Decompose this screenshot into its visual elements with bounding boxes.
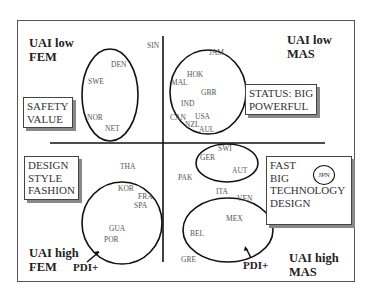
jpn-circle: JPN [313,165,335,185]
label-uai-high-mas: UAI highMAS [289,251,339,279]
country-mal: MAL [171,79,188,87]
country-aut: AUT [232,167,247,175]
country-gua: GUA [109,225,125,233]
country-swe: SWE [88,78,104,86]
pdi-plus-right: PDI+ [243,259,268,271]
country-ind: IND [181,100,194,108]
country-swi: SWI [218,145,232,153]
pdi-plus-left: PDI+ [73,261,98,273]
country-kor: KOR [118,185,134,193]
country-ven: VEN [237,195,252,203]
country-nor: NOR [87,114,103,122]
country-can: CAN [170,114,186,122]
country-gre: GRE [181,256,196,264]
country-net: NET [105,125,120,133]
country-spa: SPA [134,202,147,210]
country-ita: ITA [216,188,228,196]
country-mex: MEX [226,215,243,223]
country-hok: HOK [187,71,203,79]
country-gbr: GBR [201,89,216,97]
box-safety-value: SAFETY VALUE [23,97,73,128]
country-fra: FRA [138,193,153,201]
country-bel: BEL [190,230,204,238]
country-den: DEN [111,61,126,69]
country-sin: SIN [147,42,159,50]
country-ger: GER [200,154,215,162]
box-status-big-powerful: STATUS: BIG POWERFUL [245,84,317,115]
label-uai-low-mas: UAI lowMAS [287,33,332,61]
box-fast-big-technology-design: FAST BIG TECHNOLOGY DESIGN JPN [266,156,352,225]
country-aul: AUL [199,126,214,134]
country-nzl: NZL [185,121,200,129]
country-jam: JAM [209,49,224,57]
country-por: POR [104,236,119,244]
label-uai-low-fem: UAI lowFEM [29,36,74,64]
country-pak: PAK [178,174,192,182]
label-uai-high-fem: UAI highFEM [29,246,79,274]
country-tha: THA [120,163,135,171]
box-design-style-fashion: DESIGN STYLE FASHION [24,156,79,200]
